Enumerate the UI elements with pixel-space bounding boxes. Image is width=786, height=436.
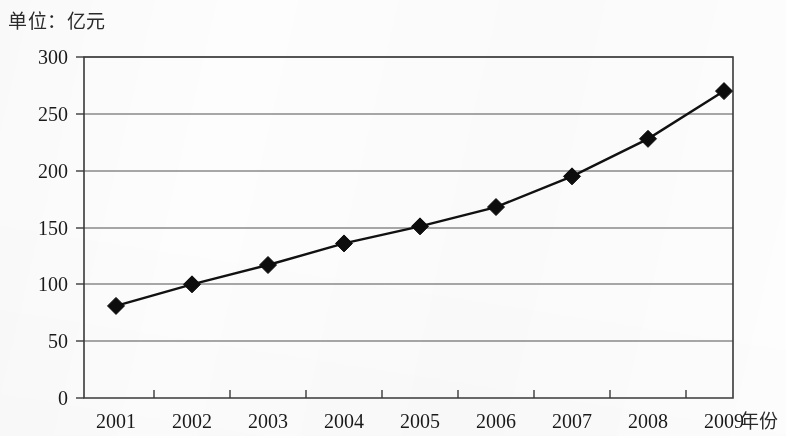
chart-page: 单位：亿元 xyxy=(0,0,786,436)
y-axis-label-0: 0 xyxy=(58,387,68,409)
data-point-2004 xyxy=(336,235,353,252)
x-axis-labels: 2001 2002 2003 2004 2005 2006 2007 2008 … xyxy=(96,410,744,432)
data-point-2005 xyxy=(412,218,429,235)
data-point-2001 xyxy=(108,297,125,314)
y-axis-labels: 300 250 200 150 100 50 0 xyxy=(38,46,68,409)
series-line xyxy=(116,91,724,306)
y-axis-label-50: 50 xyxy=(48,330,68,352)
x-axis-label-2008: 2008 xyxy=(628,410,668,432)
x-axis-label-2006: 2006 xyxy=(476,410,516,432)
x-tickmarks xyxy=(154,390,686,398)
line-chart: 300 250 200 150 100 50 0 2001 2002 2003 … xyxy=(0,0,786,436)
y-axis-label-200: 200 xyxy=(38,160,68,182)
data-point-2008 xyxy=(640,130,657,147)
y-axis-label-250: 250 xyxy=(38,103,68,125)
data-point-2009 xyxy=(716,83,733,100)
data-series xyxy=(108,83,733,315)
x-axis-label-2004: 2004 xyxy=(324,410,364,432)
data-point-2003 xyxy=(260,257,277,274)
y-axis-label-150: 150 xyxy=(38,217,68,239)
gridlines xyxy=(84,57,733,341)
y-tickmarks xyxy=(76,57,84,398)
x-axis-label-2005: 2005 xyxy=(400,410,440,432)
x-axis-label-2002: 2002 xyxy=(172,410,212,432)
x-axis-label-2007: 2007 xyxy=(552,410,592,432)
x-axis-label-2009: 2009 xyxy=(704,410,744,432)
y-axis-label-300: 300 xyxy=(38,46,68,68)
data-point-2002 xyxy=(184,276,201,293)
x-axis-label-2003: 2003 xyxy=(248,410,288,432)
x-axis-label-2001: 2001 xyxy=(96,410,136,432)
data-point-2006 xyxy=(488,199,505,216)
x-axis-name: 年份 xyxy=(740,410,778,432)
y-axis-label-100: 100 xyxy=(38,273,68,295)
